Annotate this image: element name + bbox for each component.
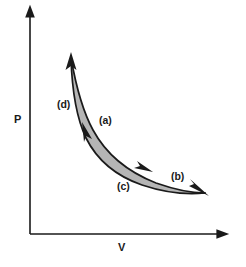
curve-label-a: (a)	[99, 114, 112, 126]
upper-isotherm-curve	[71, 58, 205, 193]
volume-axis-label: V	[118, 241, 126, 253]
curve-label-d: (d)	[57, 98, 70, 110]
pv-diagram-canvas	[0, 0, 246, 267]
curve-label-c: (c)	[117, 180, 130, 192]
curve-label-b: (b)	[171, 170, 184, 182]
lower-middle-flow-arrow-icon	[134, 161, 153, 172]
pv-diagram-figure: P V (a) (b) (c) (d)	[0, 0, 246, 267]
pressure-axis-label: P	[14, 113, 22, 125]
